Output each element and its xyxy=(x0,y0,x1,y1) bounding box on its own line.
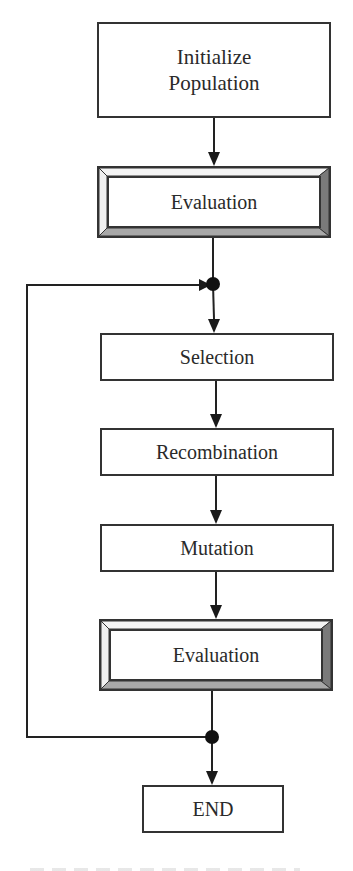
node-label: Mutation xyxy=(180,536,253,561)
flowchart-canvas: Initialize Population Evaluation Selecti… xyxy=(0,0,353,871)
node-label: END xyxy=(192,797,233,822)
junction-bottom-dot xyxy=(205,730,219,744)
node-label: Evaluation xyxy=(107,176,321,228)
node-mutation: Mutation xyxy=(100,524,334,572)
node-evaluation-2: Evaluation xyxy=(99,619,333,691)
node-label: Selection xyxy=(180,345,254,370)
node-recombination: Recombination xyxy=(100,428,334,476)
node-label-line1: Initialize xyxy=(177,44,252,70)
node-end: END xyxy=(142,785,284,833)
node-selection: Selection xyxy=(100,333,334,381)
junction-top-dot xyxy=(206,277,220,291)
node-evaluation-1: Evaluation xyxy=(97,166,331,238)
node-initialize-population: Initialize Population xyxy=(97,22,331,118)
node-label: Recombination xyxy=(156,440,278,465)
node-label: Evaluation xyxy=(109,629,323,681)
node-label-line2: Population xyxy=(168,70,259,96)
